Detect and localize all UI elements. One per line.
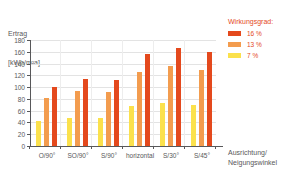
x-axis-tick-label: S/30°: [163, 152, 179, 159]
legend-label: 7 %: [247, 52, 258, 59]
y-axis-tick-label: 40: [18, 119, 25, 126]
x-axis-title: Ausrichtung/ Neigungswinkel: [228, 148, 277, 167]
y-axis-tick-label: 160: [14, 48, 25, 55]
y-axis-tick-label: 60: [18, 107, 25, 114]
bar-group: [95, 40, 126, 146]
y-axis-tick-mark: [27, 52, 30, 53]
y-axis-tick-label: 80: [18, 95, 25, 102]
bar: [137, 72, 142, 146]
bar: [52, 87, 57, 146]
y-axis-tick-label: 120: [14, 72, 25, 79]
x-axis-tick-mark: [215, 146, 216, 149]
x-axis-tick-label: S/45°: [194, 152, 210, 159]
x-axis-tick-mark: [122, 146, 123, 149]
x-axis-tick-mark: [184, 146, 185, 149]
y-axis-tick-label: 100: [14, 84, 25, 91]
bar-group: [188, 40, 219, 146]
x-axis-tick-mark: [29, 146, 30, 149]
y-axis-tick-mark: [27, 122, 30, 123]
x-axis-tick-mark: [60, 146, 61, 149]
bar: [129, 106, 134, 146]
x-axis-tick-label: SO/90°: [67, 152, 88, 159]
legend-title: Wirkungsgrad:: [228, 18, 273, 25]
bar: [36, 121, 41, 146]
bar: [44, 98, 49, 146]
legend-swatch: [228, 31, 241, 36]
y-axis-tick-mark: [27, 87, 30, 88]
legend-label: 13 %: [247, 41, 262, 48]
legend-item[interactable]: 13 %: [228, 41, 273, 48]
bar: [75, 91, 80, 146]
x-axis-title-line1: Ausrichtung/: [228, 148, 277, 158]
y-axis-tick-label: 140: [14, 60, 25, 67]
legend-item[interactable]: 7 %: [228, 52, 273, 59]
y-axis-tick-label: 20: [18, 131, 25, 138]
y-axis-tick-mark: [27, 134, 30, 135]
legend: Wirkungsgrad: 16 %13 %7 %: [228, 18, 273, 63]
y-axis-line: [30, 40, 31, 146]
y-axis-tick-label: 0: [21, 143, 25, 150]
legend-item[interactable]: 16 %: [228, 30, 273, 37]
y-axis-tick-mark: [27, 75, 30, 76]
bar: [98, 118, 103, 146]
bar: [207, 52, 212, 146]
bar-group: [126, 40, 157, 146]
x-axis-tick-label: O/90°: [39, 152, 56, 159]
bar: [67, 118, 72, 146]
x-axis-tick-label: S/90°: [101, 152, 117, 159]
y-axis-tick-mark: [27, 111, 30, 112]
legend-items: 16 %13 %7 %: [228, 30, 273, 59]
plot-area: 020406080100120140160180 O/90°SO/90°S/90…: [30, 40, 216, 146]
legend-swatch: [228, 42, 241, 47]
bar: [176, 48, 181, 146]
bar: [106, 92, 111, 146]
y-axis-tick-label: 180: [14, 37, 25, 44]
x-axis-title-line2: Neigungswinkel: [228, 158, 277, 168]
bar: [114, 80, 119, 146]
bar: [199, 70, 204, 146]
legend-label: 16 %: [247, 30, 262, 37]
x-axis-tick-mark: [91, 146, 92, 149]
bar: [160, 103, 165, 146]
bar: [145, 54, 150, 146]
bar: [168, 66, 173, 146]
bar: [191, 105, 196, 146]
y-axis-tick-mark: [27, 99, 30, 100]
y-axis-tick-mark: [27, 40, 30, 41]
chart-root: Ertrag [kWh/m²a] 02040608010012014016018…: [0, 0, 301, 180]
bar-group: [64, 40, 95, 146]
bar: [83, 79, 88, 146]
x-axis-tick-label: horizontal: [126, 152, 154, 159]
x-axis-tick-mark: [153, 146, 154, 149]
legend-swatch: [228, 53, 241, 58]
bar-group: [157, 40, 188, 146]
x-axis-line: [30, 146, 223, 147]
y-axis-tick-mark: [27, 64, 30, 65]
bar-group: [33, 40, 64, 146]
